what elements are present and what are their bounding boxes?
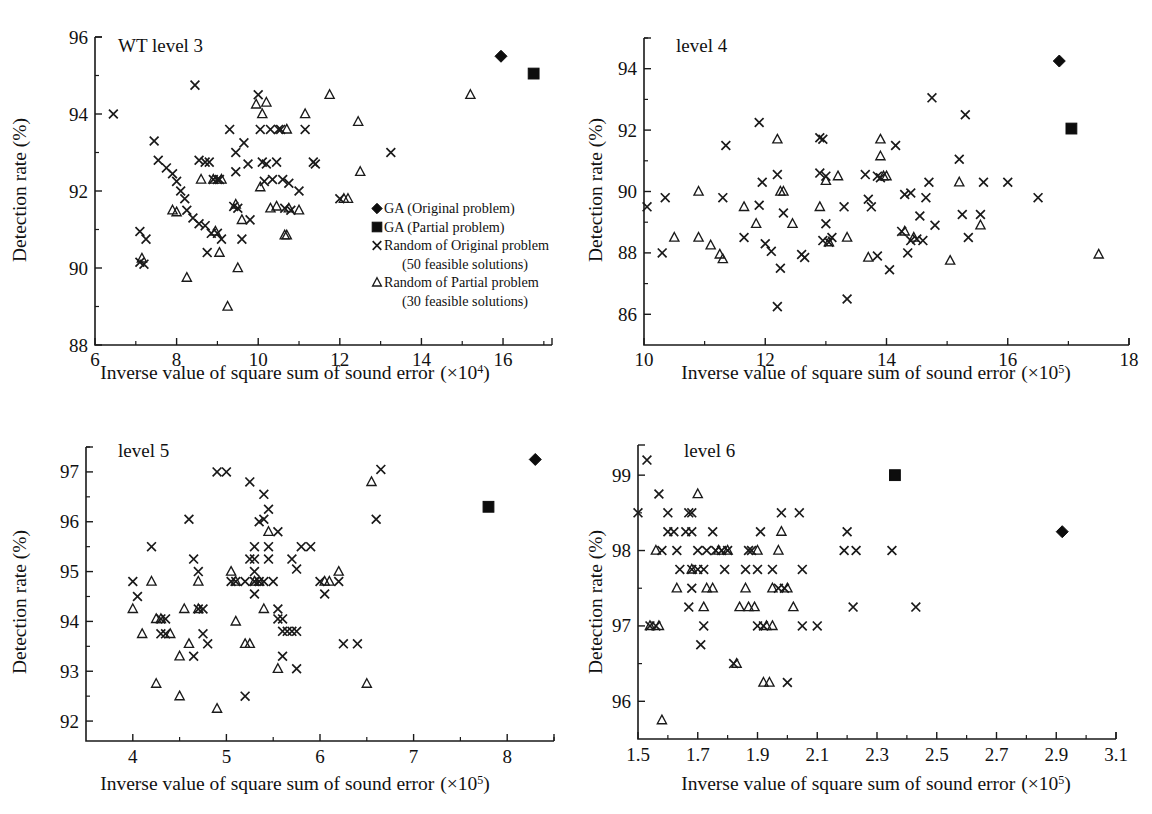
- y-tick-label: 96: [60, 511, 79, 532]
- panel-1-svg: 68101214168890929496 GA (Original proble…: [0, 0, 576, 407]
- panel-2-xlabel: Inverse value of square sum of sound err…: [681, 362, 1071, 384]
- panel-4-xlabel: Inverse value of square sum of sound err…: [681, 773, 1071, 795]
- y-tick-label: 92: [60, 711, 79, 732]
- panel-level-4: 10121416188688909294 level 4 Inverse val…: [576, 0, 1152, 407]
- legend-label: GA (Original problem): [384, 200, 515, 217]
- series-filled-square: [528, 68, 539, 79]
- series-cross: [643, 93, 1043, 311]
- x-tick-label: 16: [494, 349, 513, 370]
- y-tick-label: 92: [618, 120, 637, 141]
- legend-label: Random of Partial problem: [384, 274, 539, 290]
- panel-3-ylabel: Detection rate (%): [9, 530, 31, 674]
- legend-item: Random of Partial problem: [373, 274, 539, 290]
- legend-label: Random of Original problem: [384, 237, 549, 253]
- cross-icon: [373, 241, 382, 250]
- panel-level-5: 45678929394959697 level 5 Inverse value …: [0, 407, 576, 814]
- panel-4-title: level 6: [684, 440, 735, 461]
- series-filled-square: [890, 470, 901, 481]
- y-tick-label: 95: [60, 561, 79, 582]
- series-filled-square: [483, 501, 494, 512]
- x-tick-label: 2.3: [865, 744, 889, 765]
- y-tick-label: 96: [69, 27, 88, 48]
- filled-diamond-icon: [372, 203, 382, 213]
- y-tick-label: 94: [60, 611, 80, 632]
- y-tick-label: 98: [612, 540, 631, 561]
- panel-3-xlabel: Inverse value of square sum of sound err…: [100, 773, 490, 795]
- y-tick-label: 90: [618, 181, 637, 202]
- filled-square-icon: [372, 222, 382, 232]
- x-tick-label: 18: [1120, 349, 1139, 370]
- x-tick-label: 6: [90, 349, 100, 370]
- panel-4-points: [634, 456, 1069, 724]
- x-tick-label: 2.9: [1044, 744, 1068, 765]
- x-tick-label: 6: [315, 746, 325, 767]
- panel-4-svg: 1.51.71.92.12.32.52.72.93.196979899 leve…: [576, 407, 1152, 814]
- legend-sublabel: (50 feasible solutions): [402, 256, 528, 273]
- x-tick-label: 1.7: [686, 744, 710, 765]
- series-filled-diamond: [1053, 55, 1065, 67]
- panel-2-title: level 4: [676, 35, 728, 56]
- series-filled-diamond: [495, 50, 507, 62]
- legend-label: GA (Partial problem): [384, 219, 505, 236]
- x-tick-label: 1.5: [626, 744, 650, 765]
- x-tick-label: 2.5: [925, 744, 949, 765]
- y-tick-label: 94: [618, 58, 638, 79]
- x-tick-label: 8: [502, 746, 512, 767]
- y-tick-label: 93: [60, 661, 79, 682]
- x-tick-label: 10: [635, 349, 654, 370]
- panel-3-points: [128, 453, 541, 712]
- panel-level-6: 1.51.71.92.12.32.52.72.93.196979899 leve…: [576, 407, 1152, 814]
- series-open-triangle: [645, 489, 798, 724]
- x-tick-label: 2.7: [985, 744, 1009, 765]
- y-tick-label: 94: [69, 104, 89, 125]
- x-tick-label: 7: [409, 746, 419, 767]
- figure-root: 68101214168890929496 GA (Original proble…: [0, 0, 1152, 814]
- legend-item: GA (Partial problem): [372, 219, 505, 236]
- panel-1-ylabel: Detection rate (%): [9, 118, 31, 262]
- y-tick-label: 88: [618, 242, 637, 263]
- open-triangle-icon: [373, 278, 382, 286]
- x-tick-label: 1.9: [746, 744, 770, 765]
- panel-3-svg: 45678929394959697 level 5 Inverse value …: [0, 407, 576, 814]
- y-tick-label: 88: [69, 335, 88, 356]
- panel-1-axes: 68101214168890929496: [69, 27, 552, 371]
- legend-item: GA (Original problem): [372, 200, 515, 217]
- panel-3-title: level 5: [118, 440, 169, 461]
- series-cross: [128, 465, 385, 701]
- y-tick-label: 99: [612, 465, 631, 486]
- panel-1-title: WT level 3: [118, 35, 203, 56]
- x-tick-label: 4: [128, 746, 138, 767]
- legend-sublabel: (30 feasible solutions): [402, 293, 528, 310]
- legend-item: Random of Original problem: [373, 237, 549, 253]
- series-open-triangle: [128, 477, 376, 712]
- x-tick-label: 5: [222, 746, 232, 767]
- series-open-triangle: [670, 134, 1104, 264]
- series-filled-square: [1066, 123, 1077, 134]
- y-tick-label: 96: [612, 691, 631, 712]
- y-tick-label: 92: [69, 181, 88, 202]
- panel-1-xlabel: Inverse value of square sum of sound err…: [100, 362, 490, 384]
- series-cross: [109, 81, 395, 269]
- panel-4-ylabel: Detection rate (%): [585, 530, 607, 674]
- panel-2-axes: 10121416188688909294: [618, 38, 1139, 370]
- x-tick-label: 3.1: [1104, 744, 1128, 765]
- y-tick-label: 86: [618, 304, 637, 325]
- panel-1-legend: GA (Original problem)GA (Partial problem…: [372, 200, 549, 310]
- x-tick-label: 2.1: [805, 744, 829, 765]
- panel-2-ylabel: Detection rate (%): [585, 118, 607, 262]
- panel-4-axes: 1.51.71.92.12.32.52.72.93.196979899: [612, 445, 1128, 765]
- y-tick-label: 97: [60, 461, 79, 482]
- series-filled-diamond: [529, 453, 541, 465]
- y-tick-label: 90: [69, 258, 88, 279]
- series-cross: [634, 456, 921, 687]
- panel-wt-level-3: 68101214168890929496 GA (Original proble…: [0, 0, 576, 407]
- series-filled-diamond: [1056, 526, 1068, 538]
- panel-2-points: [643, 55, 1104, 311]
- panel-2-svg: 10121416188688909294 level 4 Inverse val…: [576, 0, 1152, 407]
- y-tick-label: 97: [612, 615, 631, 636]
